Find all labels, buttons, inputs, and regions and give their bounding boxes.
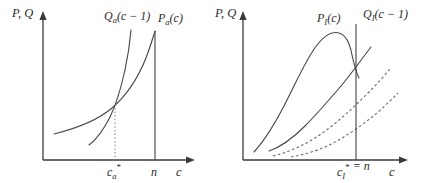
x-axis-arrowhead bbox=[399, 156, 408, 163]
x-axis-label: c bbox=[389, 165, 395, 179]
y-axis-label: P, Q bbox=[214, 6, 236, 20]
curve-dashed-lower bbox=[291, 93, 398, 157]
x-axis-arrowhead bbox=[186, 156, 195, 163]
y-axis-arrowhead bbox=[239, 11, 246, 20]
curve-label-QI: QI(c − 1) bbox=[363, 7, 408, 23]
integrated-panel: P, Q c PI(c) QI(c − 1) cI* = n bbox=[213, 0, 426, 183]
curve-dashed-upper bbox=[273, 69, 390, 156]
x-axis-label: c bbox=[176, 165, 182, 179]
curve-Qa bbox=[89, 30, 131, 145]
curve-PI bbox=[254, 33, 359, 152]
x-tick-ca-star: ca* bbox=[107, 162, 122, 181]
curve-Pa bbox=[54, 31, 155, 134]
x-tick-cI-star: cI* = n bbox=[337, 159, 370, 181]
x-tick-n: n bbox=[151, 165, 157, 179]
y-axis-label: P, Q bbox=[11, 6, 33, 20]
curve-label-Qa: Qa(c − 1) bbox=[104, 9, 150, 25]
economics-figure: P, Q c Qa(c − 1) Pa(c) ca* n P, Q c bbox=[0, 0, 426, 183]
curve-label-PI: PI(c) bbox=[316, 11, 341, 27]
curve-label-Pa: Pa(c) bbox=[157, 11, 183, 27]
autarky-panel: P, Q c Qa(c − 1) Pa(c) ca* n bbox=[0, 0, 213, 183]
y-axis-arrowhead bbox=[39, 11, 46, 20]
